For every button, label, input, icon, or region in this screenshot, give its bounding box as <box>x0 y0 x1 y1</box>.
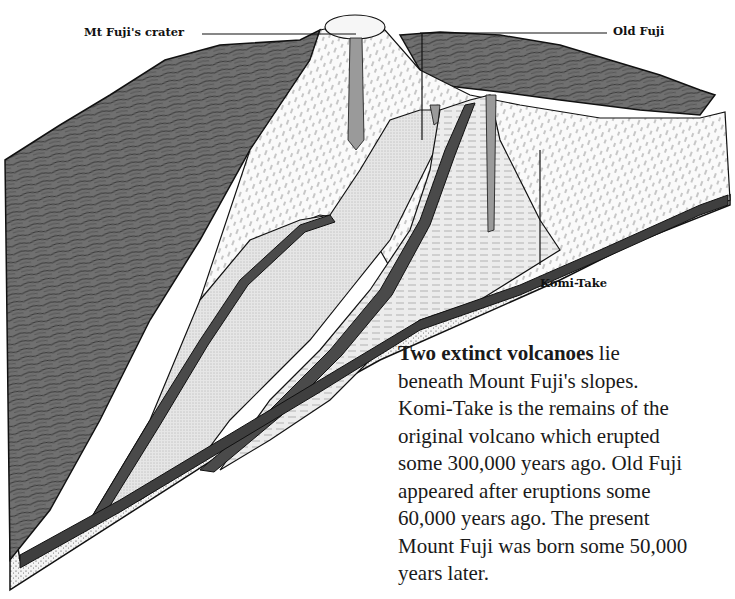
caption-line: lie <box>594 341 620 365</box>
caption-lead-bold: Two extinct volcanoes <box>398 341 594 365</box>
caption-line: some 300,000 years ago. Old Fuji <box>398 451 682 475</box>
label-old-fuji: Old Fuji <box>613 24 664 38</box>
main-vent <box>348 38 364 150</box>
caption-line: beneath Mount Fuji's slopes. <box>398 369 639 393</box>
label-komi-take: Komi-Take <box>540 276 607 290</box>
caption-text-block: Two extinct volcanoes lie beneath Mount … <box>398 340 735 588</box>
caption-line: Mount Fuji was born some 50,000 <box>398 534 687 558</box>
caption-line: years later. <box>398 561 489 585</box>
caption-line: original volcano which erupted <box>398 424 660 448</box>
caption-line: 60,000 years ago. The present <box>398 506 650 530</box>
crater-rim <box>325 15 385 39</box>
caption-line: Komi-Take is the remains of the <box>398 396 669 420</box>
caption-line: appeared after eruptions some <box>398 479 650 503</box>
label-mt-fuji-crater: Mt Fuji's crater <box>84 25 184 39</box>
komi-take-vent <box>486 95 496 232</box>
